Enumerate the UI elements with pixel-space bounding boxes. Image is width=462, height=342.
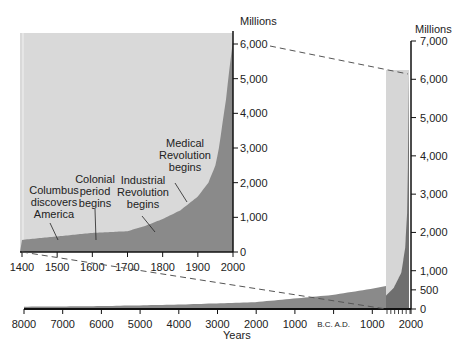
- inset-x-tick-label: 1500: [45, 261, 69, 273]
- inset-y-tick-label: 6,000: [240, 38, 268, 50]
- main-x-tick-label: 2000: [399, 318, 423, 330]
- main-y-tick-label: 2,000: [420, 226, 448, 238]
- svg-text:Revolution: Revolution: [159, 149, 211, 161]
- main-x-axis-title: Years: [223, 329, 251, 341]
- main-x-tick-label: 8000: [12, 318, 36, 330]
- main-y-unit: Millions: [415, 23, 452, 35]
- main-x-tick-label: 1000: [360, 318, 384, 330]
- main-y-tick-label: 4,000: [420, 150, 448, 162]
- inset-x-tick-label: 1400: [10, 261, 34, 273]
- svg-text:Columbus: Columbus: [29, 184, 79, 196]
- svg-text:Revolution: Revolution: [117, 186, 169, 198]
- inset-y-tick-label: 0: [240, 246, 246, 258]
- inset-chart: 140015001600170018001900200001,0002,0003…: [10, 15, 277, 273]
- main-y-tick-label: 1,000: [420, 265, 448, 277]
- main-y-tick-label: 5,000: [420, 112, 448, 124]
- svg-text:begins: begins: [79, 197, 112, 209]
- main-x-tick-label: 4000: [167, 318, 191, 330]
- svg-text:period: period: [80, 185, 111, 197]
- svg-text:Colonial: Colonial: [75, 173, 115, 185]
- inset-x-tick-label: 2000: [221, 261, 245, 273]
- svg-text:begins: begins: [169, 161, 202, 173]
- bc-ad-label: B.C. A.D.: [317, 320, 350, 329]
- main-x-tick-label: 7000: [50, 318, 74, 330]
- main-x-tick-label: 6000: [89, 318, 113, 330]
- svg-text:America: America: [34, 208, 75, 220]
- inset-y-tick-label: 1,000: [240, 211, 268, 223]
- main-y-tick-label: 6,000: [420, 73, 448, 85]
- main-y-tick-label: 0: [420, 303, 426, 315]
- main-x-tick-label: 1000: [283, 318, 307, 330]
- svg-text:begins: begins: [127, 198, 160, 210]
- svg-text:Medical: Medical: [166, 137, 204, 149]
- inset-y-tick-label: 5,000: [240, 73, 268, 85]
- main-y-tick-label: 7,000: [420, 35, 448, 47]
- inset-y-tick-label: 2,000: [240, 177, 268, 189]
- main-population-area: [24, 286, 386, 309]
- svg-text:Industrial: Industrial: [121, 174, 166, 186]
- inset-y-tick-label: 3,000: [240, 142, 268, 154]
- inset-x-tick-label: 1900: [186, 261, 210, 273]
- inset-x-tick-label: 1800: [150, 261, 174, 273]
- main-y-tick-label: 500: [420, 284, 438, 296]
- inset-y-tick-label: 4,000: [240, 107, 268, 119]
- population-growth-chart: 140015001600170018001900200001,0002,0003…: [0, 0, 462, 342]
- inset-x-tick-label: 1700: [115, 261, 139, 273]
- main-x-tick-label: 5000: [128, 318, 152, 330]
- connector-top: [270, 46, 408, 74]
- main-y-tick-label: 3,000: [420, 188, 448, 200]
- svg-text:discovers: discovers: [31, 196, 78, 208]
- inset-y-unit: Millions: [240, 15, 277, 27]
